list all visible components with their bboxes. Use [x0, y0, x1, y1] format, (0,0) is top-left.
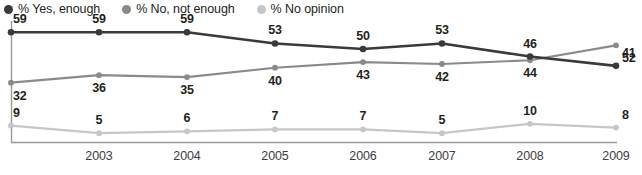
- line-chart: % Yes, enough % No, not enough % No opin…: [0, 0, 642, 175]
- x-axis-tick-label: 2009: [602, 150, 629, 163]
- data-point-label: 40: [268, 74, 282, 87]
- data-point-label: 59: [13, 13, 27, 26]
- data-point-label: 5: [439, 114, 446, 127]
- legend-dot-icon: [4, 5, 13, 14]
- data-point-label: 59: [92, 13, 106, 26]
- x-axis-tick-label: 2004: [173, 150, 200, 163]
- data-point-label: 46: [523, 37, 537, 50]
- data-point-label: 50: [356, 30, 370, 43]
- data-point-label: 52: [622, 52, 636, 65]
- plot-area: 5959595350534641323635404342445295677510…: [0, 16, 642, 149]
- x-axis-tick-label: 2008: [516, 150, 543, 163]
- data-point-label: 6: [184, 112, 191, 125]
- data-point-label: 35: [180, 84, 194, 97]
- x-axis-tick-label: 2005: [261, 150, 288, 163]
- x-axis-tick-label: 2006: [349, 150, 376, 163]
- data-point-label: 9: [13, 106, 20, 119]
- data-point-label: 53: [435, 24, 449, 37]
- legend-item-no-not-enough[interactable]: % No, not enough: [122, 3, 234, 16]
- data-point-label: 36: [92, 82, 106, 95]
- data-point-label: 10: [523, 105, 537, 118]
- data-point-label: 42: [435, 71, 449, 84]
- data-point-label: 44: [523, 67, 537, 80]
- data-point-label: 7: [272, 110, 279, 123]
- x-axis-tick-labels: 2003200420052006200720082009: [0, 150, 642, 175]
- value-labels-layer: 5959595350534641323635404342445295677510…: [0, 16, 642, 149]
- legend-dot-icon: [122, 5, 131, 14]
- legend-label: % No opinion: [271, 3, 344, 16]
- legend-label: % Yes, enough: [18, 3, 100, 16]
- x-axis-tick-label: 2003: [85, 150, 112, 163]
- data-point-label: 53: [268, 24, 282, 37]
- legend-dot-icon: [257, 5, 266, 14]
- legend-item-no-opinion[interactable]: % No opinion: [257, 3, 344, 16]
- data-point-label: 5: [96, 114, 103, 127]
- x-axis-tick-label: 2007: [428, 150, 455, 163]
- data-point-label: 32: [13, 89, 27, 102]
- data-point-label: 59: [180, 13, 194, 26]
- data-point-label: 7: [360, 110, 367, 123]
- data-point-label: 8: [622, 108, 629, 121]
- data-point-label: 43: [356, 69, 370, 82]
